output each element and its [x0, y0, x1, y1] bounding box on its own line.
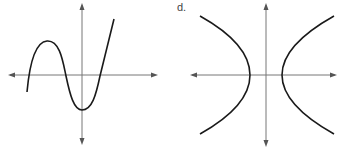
cubic-curve: [27, 19, 114, 110]
hyperbola-graph: [170, 0, 339, 149]
x-axis-left-arrow-icon: [190, 73, 197, 78]
y-axis-up-arrow-icon: [80, 3, 85, 10]
panel-label-d: d.: [177, 1, 186, 13]
y-axis-down-arrow-icon: [80, 138, 85, 145]
y-axis-up-arrow-icon: [264, 3, 269, 10]
graph-panel-cubic: [0, 0, 170, 149]
x-axis-right-arrow-icon: [330, 73, 337, 78]
cubic-graph: [0, 0, 170, 149]
x-axis-left-arrow-icon: [8, 73, 15, 78]
y-axis-down-arrow-icon: [264, 140, 269, 147]
x-axis-right-arrow-icon: [151, 73, 158, 78]
graph-panel-hyperbola: d.: [170, 0, 339, 149]
